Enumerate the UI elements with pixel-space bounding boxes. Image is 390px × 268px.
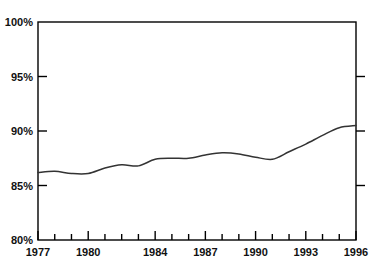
y-tick-label: 85% [11, 180, 33, 192]
chart-container: 80%85%90%95%100% 19771980198419871990199… [0, 0, 390, 268]
x-tick-label: 1987 [193, 246, 217, 258]
x-tick-label: 1996 [344, 246, 368, 258]
chart-background [0, 0, 390, 268]
x-tick-label: 1984 [143, 246, 168, 258]
x-tick-label: 1980 [76, 246, 100, 258]
y-tick-label: 80% [11, 234, 33, 246]
line-chart: 80%85%90%95%100% 19771980198419871990199… [0, 0, 390, 268]
x-tick-label: 1993 [294, 246, 318, 258]
x-tick-label: 1977 [26, 246, 50, 258]
y-tick-label: 90% [11, 125, 33, 137]
x-axis-labels: 1977198019841987199019931996 [26, 246, 368, 258]
x-tick-label: 1990 [243, 246, 267, 258]
y-tick-label: 100% [5, 16, 33, 28]
y-tick-label: 95% [11, 71, 33, 83]
